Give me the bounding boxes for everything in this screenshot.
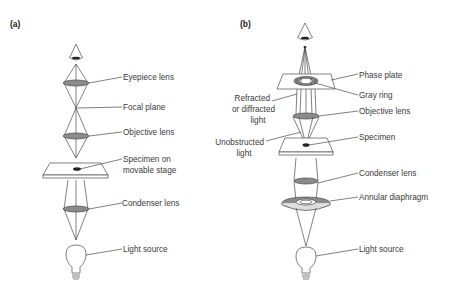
- panel-label-a: (a): [10, 19, 21, 29]
- annular-diaphragm: [282, 197, 330, 211]
- condenser-lens-b: [294, 178, 318, 184]
- microscope-diagram: (a) Eyepiece lens Focal plane Objective …: [0, 0, 455, 292]
- label-unobstructed-line1: Unobstructed: [215, 138, 264, 147]
- eye-icon: [297, 23, 313, 40]
- label-refracted-line3: light: [250, 116, 266, 125]
- label-specimen-line2: movable stage: [123, 166, 177, 175]
- label-condenser-lens: Condenser lens: [122, 199, 179, 208]
- label-phase-plate: Phase plate: [359, 71, 403, 80]
- objective-lens: [63, 133, 89, 139]
- panel-label-b: (b): [240, 19, 251, 29]
- label-eyepiece-lens: Eyepiece lens: [123, 73, 174, 82]
- panel-a: [43, 44, 122, 279]
- label-annular-diaphragm: Annular diaphragm: [359, 193, 428, 202]
- label-gray-ring: Gray ring: [359, 91, 393, 100]
- label-refracted-line1: Refracted: [235, 94, 271, 103]
- label-light-source: Light source: [123, 245, 168, 254]
- condenser-lens: [63, 206, 89, 212]
- eye-icon: [69, 44, 83, 60]
- label-specimen-line1: Specimen on: [123, 155, 171, 164]
- objective-lens-b: [293, 113, 319, 119]
- label-condenser-lens-b: Condenser lens: [359, 169, 416, 178]
- light-bulb-icon: [66, 245, 86, 279]
- panel-b: [266, 23, 358, 279]
- specimen-stage: [279, 138, 333, 155]
- stage: [43, 163, 108, 178]
- label-objective-lens-b: Objective lens: [359, 107, 410, 116]
- phase-plate: [277, 74, 335, 89]
- eyepiece-lens: [63, 80, 89, 86]
- label-objective-lens: Objective lens: [123, 128, 174, 137]
- label-focal-plane: Focal plane: [123, 103, 166, 112]
- label-unobstructed-line2: light: [236, 149, 252, 158]
- label-light-source-b: Light source: [359, 245, 404, 254]
- label-refracted-line2: or diffracted: [232, 105, 276, 114]
- label-specimen-b: Specimen: [359, 133, 396, 142]
- light-bulb-icon: [296, 247, 316, 279]
